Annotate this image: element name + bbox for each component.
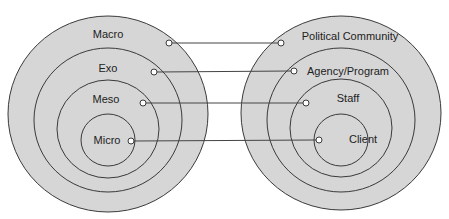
label-exo: Exo (99, 62, 118, 74)
dot-client (316, 137, 322, 143)
dot-meso (140, 100, 146, 106)
dot-micro (128, 138, 134, 144)
policy-levels-model (241, 16, 441, 210)
dot-macro (166, 40, 172, 46)
ecological-levels-model (8, 16, 208, 212)
label-micro: Micro (94, 134, 121, 146)
label-client: Client (349, 133, 377, 145)
label-agency-program: Agency/Program (307, 65, 389, 77)
label-staff: Staff (337, 92, 360, 104)
dot-agency-program (291, 68, 297, 74)
nested-circles-diagram: MacroExoMesoMicroPolitical CommunityAgen… (0, 0, 449, 219)
label-meso: Meso (93, 93, 120, 105)
label-political-community: Political Community (302, 30, 399, 42)
dot-political-community (278, 40, 284, 46)
dot-staff (303, 100, 309, 106)
dot-exo (151, 69, 157, 75)
label-macro: Macro (93, 28, 124, 40)
